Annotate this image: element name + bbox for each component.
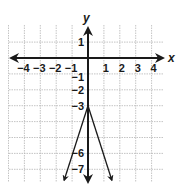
x-tick-label: −3 (33, 62, 46, 74)
y-tick-label: 1 (78, 36, 84, 48)
y-tick-label: −3 (71, 100, 84, 112)
y-tick-labels: 1−1−2−3−6−7 (71, 36, 84, 175)
y-axis-label: y (82, 11, 91, 25)
x-tick-label: 1 (103, 62, 109, 74)
x-tick-label: −2 (49, 62, 62, 74)
y-tick-label: −1 (71, 71, 84, 83)
y-tick-label: −7 (71, 163, 84, 175)
x-tick-label: 4 (151, 62, 158, 74)
absolute-value-graph: x y −4−3−2−11234 1−1−2−3−6−7 (0, 0, 180, 190)
y-tick-label: −2 (71, 84, 84, 96)
grid-lines (9, 25, 165, 182)
x-tick-label: 2 (119, 62, 125, 74)
x-axis-label: x (167, 51, 176, 65)
x-tick-label: 3 (135, 62, 141, 74)
x-tick-label: −4 (17, 62, 30, 74)
